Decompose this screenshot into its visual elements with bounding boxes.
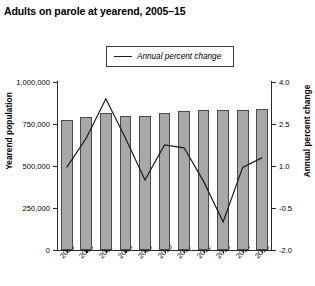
legend-line-swatch [114,56,132,57]
y-axis-left-tick-label: 0 [46,246,50,255]
y-axis-right-tick-label: 4.0 [279,78,290,87]
annual-percent-change-polyline [67,99,262,222]
y-axis-left-tick-label: 500,000 [23,162,50,171]
tick-mark [272,166,276,167]
y-axis-right-tick-label: 1.0 [279,162,290,171]
y-axis-left-tick-label: 1,000,000 [16,78,50,87]
chart-legend: Annual percent change [106,46,234,67]
tick-mark [272,250,276,251]
y-axis-left-title: Yearend population [4,76,14,186]
plot-area [57,82,272,250]
tick-mark [53,250,57,251]
y-axis-right-tick-label: -2.0 [279,246,292,255]
tick-mark [272,124,276,125]
y-axis-right-tick-label: 2.5 [279,120,290,129]
line-series-annual-percent-change [57,82,272,250]
y-axis-right-tick-label: -0.5 [279,204,292,213]
y-axis-right-title: Annual percent change [302,76,312,186]
tick-mark [272,82,276,83]
y-axis-right-tick: 2.5 [272,124,276,125]
chart-title: Adults on parole at yearend, 2005–15 [4,5,185,17]
chart-figure: Adults on parole at yearend, 2005–15 Ann… [0,0,315,286]
y-axis-left-tick-label: 250,000 [23,204,50,213]
y-axis-right-tick: -0.5 [272,208,276,209]
y-axis-left-tick: 0 [53,250,57,251]
y-axis-right-tick: -2.0 [272,250,276,251]
tick-mark [272,208,276,209]
y-axis-right-tick: 1.0 [272,166,276,167]
y-axis-right-tick: 4.0 [272,82,276,83]
legend-label-annual-percent-change: Annual percent change [137,52,221,61]
y-axis-left-tick-label: 750,000 [23,120,50,129]
